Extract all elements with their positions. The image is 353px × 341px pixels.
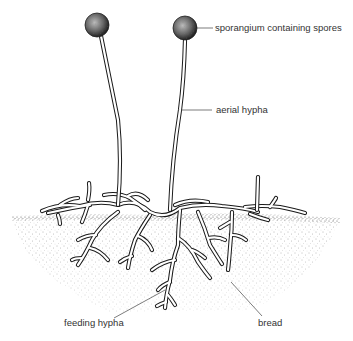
bread-substrate [12,214,340,315]
aerial-hyphae [101,36,258,210]
bread-mold-diagram [0,0,353,341]
label-aerial-hypha: aerial hypha [216,105,268,115]
sporangia [85,13,197,40]
label-sporangium: sporangium containing spores [215,23,342,33]
label-feeding-hypha: feeding hypha [64,318,124,328]
label-bread: bread [258,318,282,328]
